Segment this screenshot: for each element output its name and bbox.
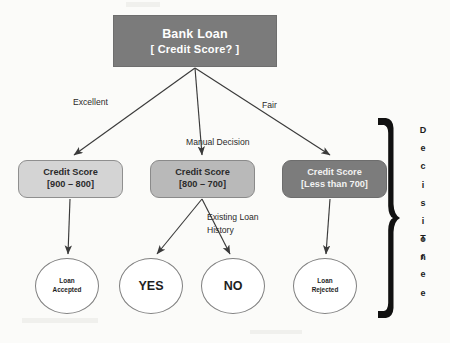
edge-label-existing-loan-history-line1: Existing Loan — [207, 211, 259, 224]
leaf-loan-accepted-line1: Loan — [59, 277, 74, 286]
caption-letter: e — [412, 270, 434, 279]
node-credit-score-less-than-700-line2: [Less than 700] — [301, 179, 368, 191]
caption-tree: Tree — [412, 234, 434, 307]
caption-letter: c — [412, 162, 434, 171]
leaf-yes[interactable]: YES — [119, 258, 183, 314]
node-bank-loan-line2: [ Credit Score? ] — [151, 42, 240, 56]
node-credit-score-800-700[interactable]: Credit Score [800 – 700] — [150, 160, 255, 198]
node-bank-loan-line1: Bank Loan — [162, 26, 228, 42]
caption-letter: i — [412, 217, 434, 226]
caption-letter: i — [412, 181, 434, 190]
leaf-loan-rejected[interactable]: Loan Rejected — [293, 258, 357, 314]
edge-label-existing-loan-history-line2: History — [207, 224, 259, 237]
caption-letter: T — [412, 234, 434, 243]
node-credit-score-800-700-line1: Credit Score — [175, 167, 230, 179]
leaf-yes-label: YES — [138, 278, 163, 295]
node-credit-score-900-800[interactable]: Credit Score [900 – 800] — [18, 160, 123, 198]
node-credit-score-900-800-line2: [900 – 800] — [47, 179, 94, 191]
caption-letter: e — [412, 144, 434, 153]
caption-letter: D — [412, 126, 434, 135]
node-credit-score-800-700-line2: [800 – 700] — [179, 179, 226, 191]
edge-label-manual-decision: Manual Decision — [186, 136, 250, 149]
caption-letter: s — [412, 199, 434, 208]
decision-tree-diagram: Bank Loan [ Credit Score? ] Credit Score… — [0, 0, 450, 343]
curly-brace-icon — [376, 116, 402, 320]
leaf-no-label: NO — [224, 278, 243, 295]
caption-letter: e — [412, 289, 434, 298]
edge-label-fair: Fair — [262, 99, 277, 112]
edge-label-existing-loan-history: Existing Loan History — [207, 211, 259, 238]
leaf-no[interactable]: NO — [201, 258, 265, 314]
leaf-loan-accepted-line2: Accepted — [53, 286, 82, 295]
caption-letter: r — [412, 252, 434, 261]
node-credit-score-900-800-line1: Credit Score — [43, 167, 98, 179]
node-credit-score-less-than-700-line1: Credit Score — [307, 167, 362, 179]
node-credit-score-less-than-700[interactable]: Credit Score [Less than 700] — [282, 160, 387, 198]
leaf-loan-rejected-line2: Rejected — [312, 286, 339, 295]
node-bank-loan[interactable]: Bank Loan [ Credit Score? ] — [113, 15, 277, 67]
edge-label-excellent: Excellent — [73, 96, 108, 109]
leaf-loan-rejected-line1: Loan — [317, 277, 332, 286]
leaf-loan-accepted[interactable]: Loan Accepted — [35, 258, 99, 314]
